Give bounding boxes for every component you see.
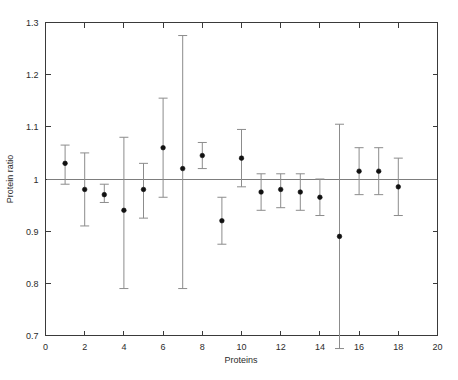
data-point-marker — [180, 166, 185, 171]
x-tick-label: 8 — [200, 342, 205, 352]
y-tick-label: 0.7 — [26, 331, 39, 341]
data-point-marker — [102, 192, 107, 197]
data-point-marker — [318, 195, 323, 200]
data-point-marker — [278, 187, 283, 192]
data-point-marker — [376, 169, 381, 174]
x-tick-label: 6 — [161, 342, 166, 352]
x-tick-label: 10 — [236, 342, 246, 352]
x-tick-label: 4 — [121, 342, 126, 352]
data-point-marker — [63, 161, 68, 166]
data-point-marker — [82, 187, 87, 192]
x-tick-label: 2 — [82, 342, 87, 352]
y-tick-label: 1.1 — [26, 122, 39, 132]
y-tick-label: 0.8 — [26, 279, 39, 289]
chart-background — [0, 0, 458, 380]
data-point-marker — [161, 145, 166, 150]
y-tick-label: 1.2 — [26, 70, 39, 80]
data-point-marker — [200, 153, 205, 158]
y-axis-label: Protein ratio — [5, 155, 15, 204]
y-tick-label: 1 — [33, 175, 38, 185]
data-point-marker — [357, 169, 362, 174]
data-point-marker — [337, 234, 342, 239]
data-point-marker — [259, 190, 264, 195]
protein-ratio-chart-figure: 02468101214161820 0.70.80.911.11.21.3 Pr… — [0, 0, 458, 380]
y-tick-label: 1.3 — [26, 18, 39, 28]
x-tick-label: 20 — [432, 342, 442, 352]
data-point-marker — [141, 187, 146, 192]
x-tick-label: 12 — [276, 342, 286, 352]
data-point-marker — [122, 208, 127, 213]
x-tick-label: 16 — [354, 342, 364, 352]
y-tick-label: 0.9 — [26, 227, 39, 237]
x-tick-label: 14 — [315, 342, 325, 352]
x-axis-label: Proteins — [224, 355, 258, 365]
data-point-marker — [396, 185, 401, 190]
data-point-marker — [239, 156, 244, 161]
x-tick-label: 0 — [43, 342, 48, 352]
data-point-marker — [298, 190, 303, 195]
x-tick-label: 18 — [393, 342, 403, 352]
chart-canvas: 02468101214161820 0.70.80.911.11.21.3 Pr… — [0, 0, 458, 380]
data-point-marker — [220, 218, 225, 223]
